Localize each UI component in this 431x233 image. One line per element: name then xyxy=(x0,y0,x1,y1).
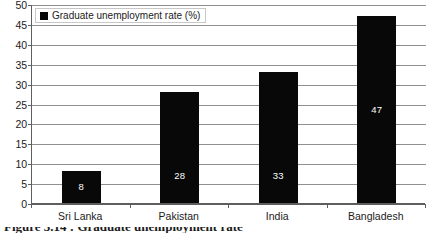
graduate-unemployment-bar-chart: 50454035302520151050 8283347 Sri LankaPa… xyxy=(0,0,431,233)
category-label: Sri Lanka xyxy=(31,210,130,222)
figure-caption-cropped: Figure 3.14 : Graduate unemployment rate xyxy=(0,227,431,233)
legend-swatch-icon xyxy=(40,12,48,20)
y-axis-tick xyxy=(28,124,32,125)
y-axis-tick-label: 30 xyxy=(16,80,27,90)
bar-value-label: 28 xyxy=(160,171,199,181)
y-axis-tick-label: 10 xyxy=(16,159,27,169)
x-axis-tick xyxy=(228,204,229,208)
x-axis-tick xyxy=(327,204,328,208)
y-axis-tick xyxy=(28,144,32,145)
bar-value-label: 33 xyxy=(259,171,298,181)
legend-label: Graduate unemployment rate (%) xyxy=(52,10,200,21)
bar: 47 xyxy=(357,16,396,203)
y-axis-tick xyxy=(28,164,32,165)
chart-legend: Graduate unemployment rate (%) xyxy=(35,8,206,23)
y-axis-tick xyxy=(28,5,32,6)
category-label: Bangladesh xyxy=(327,210,426,222)
bar: 33 xyxy=(259,72,298,203)
gridline xyxy=(32,204,426,205)
y-axis-tick xyxy=(28,184,32,185)
y-axis-tick-label: 45 xyxy=(16,20,27,30)
y-axis-tick xyxy=(28,105,32,106)
y-axis-tick-label: 35 xyxy=(16,60,27,70)
bar-value-label: 47 xyxy=(357,105,396,115)
bar: 8 xyxy=(62,171,101,203)
y-axis-tick-label: 40 xyxy=(16,40,27,50)
bar-value-label: 8 xyxy=(62,182,101,192)
y-axis-tick-label: 25 xyxy=(16,100,27,110)
figure-caption-text: Figure 3.14 : Graduate unemployment rate xyxy=(4,227,243,233)
bar: 28 xyxy=(160,92,199,203)
y-axis-tick xyxy=(28,45,32,46)
y-axis-tick-label: 0 xyxy=(21,199,27,209)
y-axis-tick-label: 20 xyxy=(16,119,27,129)
y-axis-tick-label: 5 xyxy=(21,179,27,189)
gridline xyxy=(32,5,426,6)
x-axis-tick xyxy=(130,204,131,208)
y-axis-tick xyxy=(28,85,32,86)
x-axis-tick xyxy=(425,204,426,208)
y-axis-tick-label: 15 xyxy=(16,139,27,149)
category-label: Pakistan xyxy=(130,210,229,222)
x-axis-tick xyxy=(31,204,32,208)
y-axis-tick xyxy=(28,65,32,66)
y-axis-tick-label: 50 xyxy=(16,0,27,10)
y-axis-labels: 50454035302520151050 xyxy=(0,0,27,233)
category-label: India xyxy=(228,210,327,222)
y-axis-tick xyxy=(28,25,32,26)
plot-area: 8283347 xyxy=(31,5,425,204)
